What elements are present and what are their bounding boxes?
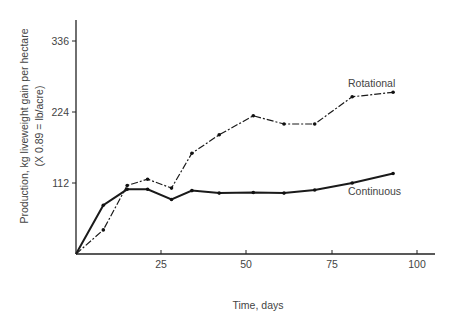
data-point xyxy=(313,122,317,126)
x-tick-100: 100 xyxy=(408,258,426,270)
series-rotational xyxy=(76,91,395,255)
data-point xyxy=(313,188,317,192)
y-axis-subtitle: (X 0.89 = lb/acre) xyxy=(33,86,45,167)
x-tick-75: 75 xyxy=(326,258,338,270)
data-point xyxy=(282,122,286,126)
chart: 336 224 112 25 50 75 100 Time, days Prod… xyxy=(0,0,461,316)
data-point xyxy=(252,191,256,195)
data-point xyxy=(252,114,256,118)
y-tick-112: 112 xyxy=(52,177,69,189)
data-point xyxy=(146,177,150,181)
data-point xyxy=(350,95,354,99)
y-tick-224: 224 xyxy=(51,106,69,118)
x-tick-50: 50 xyxy=(240,258,252,270)
y-axis-title: Production, kg liveweight gain per hecta… xyxy=(18,28,30,223)
data-point xyxy=(102,203,106,207)
data-point xyxy=(391,172,395,176)
data-point xyxy=(391,91,395,95)
data-point xyxy=(125,184,129,188)
data-point xyxy=(102,228,106,232)
series-label-rotational: Rotational xyxy=(348,77,395,89)
series-layer xyxy=(76,91,395,255)
x-axis-title: Time, days xyxy=(233,299,284,311)
axes xyxy=(72,20,435,254)
series-line xyxy=(76,92,393,254)
data-point xyxy=(282,191,286,195)
data-point xyxy=(170,198,174,202)
x-tick-25: 25 xyxy=(155,258,167,270)
data-point xyxy=(217,133,221,137)
data-point xyxy=(146,188,150,192)
data-point xyxy=(170,186,174,190)
data-point xyxy=(125,188,129,192)
y-tick-336: 336 xyxy=(51,35,69,47)
series-line xyxy=(76,174,393,255)
series-label-continuous: Continuous xyxy=(348,185,401,197)
data-point xyxy=(217,191,221,195)
data-point xyxy=(190,189,194,193)
data-point xyxy=(190,151,194,155)
